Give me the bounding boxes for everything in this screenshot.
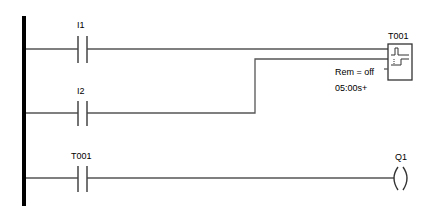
- coil-q1-icon[interactable]: [394, 167, 407, 190]
- left-power-rail: [22, 16, 26, 206]
- contact-i1-icon[interactable]: [78, 36, 87, 63]
- timer-label: T001: [388, 32, 409, 41]
- timer-block-t001[interactable]: [384, 44, 412, 80]
- contact-i2-label: I2: [77, 87, 85, 96]
- contact-t001-icon[interactable]: [78, 166, 87, 192]
- coil-q1-label: Q1: [395, 153, 407, 162]
- contact-i2-icon[interactable]: [78, 101, 87, 126]
- ladder-diagram: [0, 0, 425, 216]
- timer-retentive-setting: Rem = off: [335, 68, 374, 77]
- contact-i1-label: I1: [77, 21, 85, 30]
- contact-t001-label: T001: [71, 152, 92, 161]
- timer-time-setting: 05:00s+: [335, 84, 367, 93]
